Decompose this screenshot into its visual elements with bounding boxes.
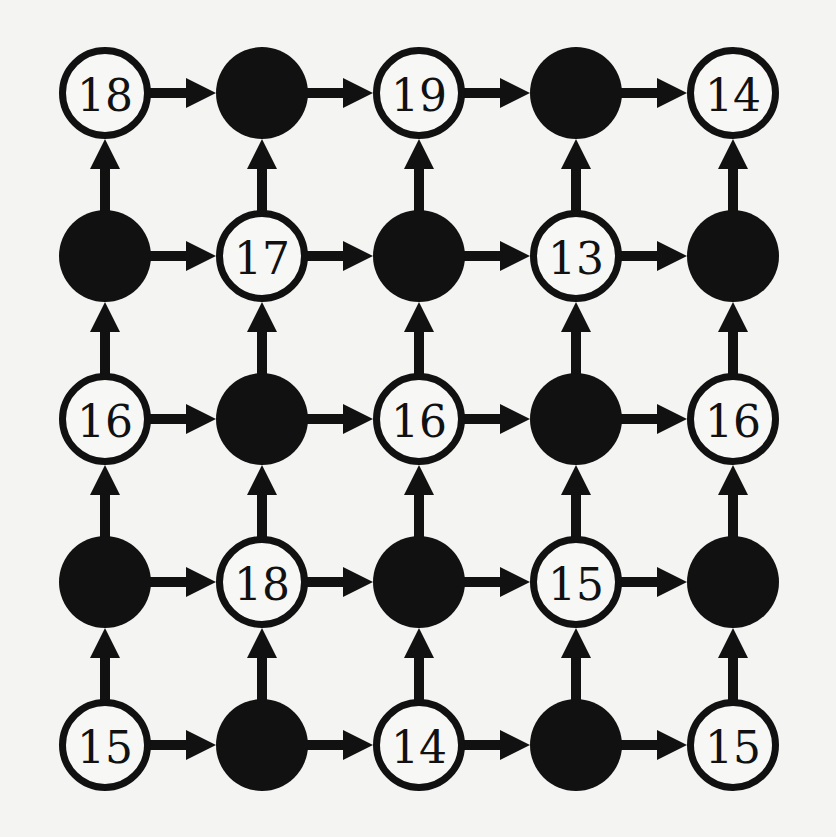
edge-r2c1-up <box>247 302 277 374</box>
node-value: 18 <box>234 559 290 610</box>
node-value: 16 <box>77 396 133 447</box>
arrow-shaft <box>307 740 344 750</box>
arrow-shaft <box>728 657 738 700</box>
edge-r3c2-up <box>404 465 434 537</box>
edge-r4c2-up <box>404 628 434 700</box>
arrowhead-right-icon <box>186 78 216 108</box>
arrow-shaft <box>100 657 110 700</box>
arrow-shaft <box>728 168 738 211</box>
arrow-shaft <box>571 331 581 374</box>
node-value: 14 <box>705 70 761 121</box>
arrow-shaft <box>150 88 187 98</box>
arrowhead-up-icon <box>561 139 591 169</box>
arrowhead-up-icon <box>718 302 748 332</box>
edge-r3c4-up <box>718 465 748 537</box>
edge-r0c1-right <box>307 78 373 108</box>
arrow-shaft <box>100 168 110 211</box>
open-node: 14 <box>691 51 776 136</box>
arrowhead-up-icon <box>247 628 277 658</box>
edge-r4c1-up <box>247 628 277 700</box>
filled-node <box>530 699 622 791</box>
arrowhead-right-icon <box>186 241 216 271</box>
edge-r4c0-up <box>90 628 120 700</box>
arrowhead-up-icon <box>90 465 120 495</box>
arrowhead-up-icon <box>561 465 591 495</box>
open-node: 18 <box>220 540 305 625</box>
open-node: 16 <box>377 377 462 462</box>
filled-node <box>59 210 151 302</box>
edge-r4c2-right <box>464 730 530 760</box>
arrow-shaft <box>621 414 658 424</box>
arrowhead-right-icon <box>343 567 373 597</box>
open-node: 16 <box>691 377 776 462</box>
edge-r0c0-right <box>150 78 216 108</box>
filled-circle-icon <box>373 210 465 302</box>
arrowhead-up-icon <box>90 139 120 169</box>
filled-node <box>687 210 779 302</box>
arrow-shaft <box>414 331 424 374</box>
arrowhead-up-icon <box>718 628 748 658</box>
filled-node <box>59 536 151 628</box>
arrow-shaft <box>257 494 267 537</box>
edge-r2c3-up <box>561 302 591 374</box>
arrow-shaft <box>464 740 501 750</box>
arrowhead-right-icon <box>186 730 216 760</box>
edge-r4c0-right <box>150 730 216 760</box>
open-node: 18 <box>63 51 148 136</box>
node-value: 14 <box>391 722 447 773</box>
open-node: 15 <box>691 703 776 788</box>
node-value: 15 <box>548 559 604 610</box>
edge-r1c2-right <box>464 241 530 271</box>
filled-circle-icon <box>59 210 151 302</box>
arrowhead-up-icon <box>404 302 434 332</box>
edge-r4c3-right <box>621 730 687 760</box>
arrow-shaft <box>414 657 424 700</box>
arrow-shaft <box>150 577 187 587</box>
filled-circle-icon <box>216 373 308 465</box>
open-node: 15 <box>63 703 148 788</box>
open-node: 13 <box>534 214 619 299</box>
arrow-shaft <box>621 88 658 98</box>
arrowhead-right-icon <box>500 78 530 108</box>
edge-r1c2-up <box>404 139 434 211</box>
arrowhead-right-icon <box>343 404 373 434</box>
edge-r1c1-right <box>307 241 373 271</box>
edge-r3c2-right <box>464 567 530 597</box>
arrowhead-right-icon <box>657 404 687 434</box>
arrow-shaft <box>464 414 501 424</box>
filled-circle-icon <box>687 536 779 628</box>
arrow-shaft <box>728 331 738 374</box>
arrowhead-right-icon <box>186 404 216 434</box>
arrow-shaft <box>150 414 187 424</box>
open-node: 19 <box>377 51 462 136</box>
arrowhead-right-icon <box>500 730 530 760</box>
edge-r3c0-up <box>90 465 120 537</box>
arrow-shaft <box>571 168 581 211</box>
arrow-shaft <box>307 88 344 98</box>
edge-r1c0-up <box>90 139 120 211</box>
open-node: 16 <box>63 377 148 462</box>
arrow-shaft <box>307 414 344 424</box>
arrowhead-up-icon <box>90 628 120 658</box>
arrow-shaft <box>728 494 738 537</box>
arrowhead-up-icon <box>90 302 120 332</box>
filled-node <box>530 373 622 465</box>
edge-r1c4-up <box>718 139 748 211</box>
filled-node <box>687 536 779 628</box>
edge-r1c0-right <box>150 241 216 271</box>
arrow-shaft <box>100 331 110 374</box>
node-value: 16 <box>391 396 447 447</box>
arrow-shaft <box>464 88 501 98</box>
edge-r2c2-right <box>464 404 530 434</box>
arrow-shaft <box>257 657 267 700</box>
node-value: 15 <box>705 722 761 773</box>
arrowhead-up-icon <box>247 465 277 495</box>
arrowhead-up-icon <box>247 139 277 169</box>
arrowhead-right-icon <box>657 241 687 271</box>
arrowhead-up-icon <box>247 302 277 332</box>
arrow-shaft <box>307 577 344 587</box>
node-value: 19 <box>391 70 447 121</box>
open-node: 14 <box>377 703 462 788</box>
edge-r2c4-up <box>718 302 748 374</box>
node-value: 15 <box>77 722 133 773</box>
